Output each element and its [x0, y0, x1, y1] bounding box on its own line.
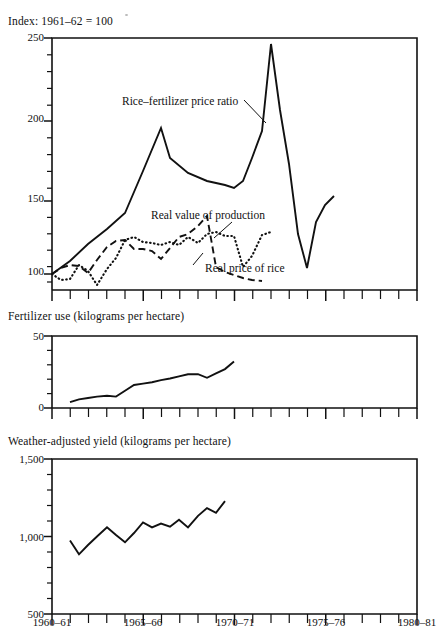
mid-y-major-ticks	[44, 336, 52, 408]
bot-y-major-ticks	[44, 459, 52, 614]
series-fertilizer-use	[70, 362, 234, 403]
middle-panel-plot	[0, 320, 442, 450]
leader-price	[193, 253, 203, 265]
leader-ratio	[244, 100, 266, 123]
mid-x-ticks	[52, 408, 417, 419]
figure-root: Index: 1961–62 = 100 250 200 150 100	[0, 0, 442, 638]
xtick-1960-61: 1960–61	[22, 616, 82, 628]
xtick-1980-81: 1980–81	[387, 616, 442, 628]
xtick-1975-76: 1975–76	[296, 616, 356, 628]
xtick-1965-66: 1965–66	[113, 616, 173, 628]
xtick-1970-71: 1970–71	[205, 616, 265, 628]
label-real-price-of-rice: Real price of rice	[205, 262, 285, 274]
top-y-major-ticks	[44, 38, 52, 274]
label-rice-fertilizer-price-ratio: Rice–fertilizer price ratio	[122, 95, 238, 107]
label-real-value-of-production: Real value of production	[151, 209, 265, 221]
top-x-ticks	[52, 290, 417, 301]
series-weather-adjusted-yield	[70, 501, 225, 554]
bottom-panel-plot	[0, 445, 442, 635]
